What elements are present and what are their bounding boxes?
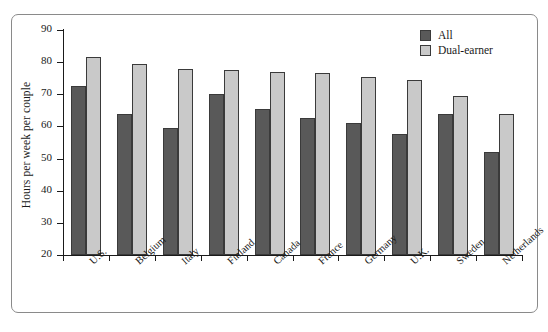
x-tick-mark <box>522 255 523 261</box>
x-tick-mark <box>201 255 202 261</box>
bar-dual-earner[interactable] <box>407 80 422 255</box>
bar-dual-earner[interactable] <box>361 77 376 255</box>
bar-dual-earner[interactable] <box>315 73 330 255</box>
bar-group <box>484 30 514 255</box>
bar-group <box>346 30 376 255</box>
x-tick-mark <box>109 255 110 261</box>
x-tick-mark <box>338 255 339 261</box>
chart-figure: Hours per week per couple 20304050607080… <box>0 0 548 332</box>
bar-all[interactable] <box>71 86 86 255</box>
bar-all[interactable] <box>255 109 270 255</box>
legend-item[interactable]: Dual-earner <box>420 43 493 58</box>
y-tick-label: 70 <box>0 87 52 98</box>
x-tick-mark <box>384 255 385 261</box>
legend-label: All <box>438 30 453 42</box>
bar-group <box>117 30 147 255</box>
legend-swatch-icon <box>420 30 431 41</box>
x-tick-mark <box>430 255 431 261</box>
y-tick-label: 50 <box>0 152 52 163</box>
legend-item[interactable]: All <box>420 28 493 43</box>
bar-group <box>163 30 193 255</box>
bar-group <box>438 30 468 255</box>
bar-all[interactable] <box>209 94 224 255</box>
y-tick-label: 60 <box>0 119 52 130</box>
bar-dual-earner[interactable] <box>86 57 101 255</box>
bar-dual-earner[interactable] <box>499 114 514 255</box>
bar-group <box>255 30 285 255</box>
y-tick-label: 40 <box>0 184 52 195</box>
bar-all[interactable] <box>346 123 361 255</box>
bar-dual-earner[interactable] <box>224 70 239 255</box>
bar-group <box>209 30 239 255</box>
bar-all[interactable] <box>438 114 453 255</box>
x-tick-mark <box>293 255 294 261</box>
legend-swatch-icon <box>420 45 431 56</box>
plot-area <box>63 30 522 255</box>
legend-label: Dual-earner <box>438 45 493 57</box>
chart-legend: AllDual-earner <box>420 28 493 58</box>
bar-all[interactable] <box>300 118 315 255</box>
bar-all[interactable] <box>117 114 132 255</box>
bar-group <box>300 30 330 255</box>
bar-all[interactable] <box>484 152 499 255</box>
bar-dual-earner[interactable] <box>270 72 285 255</box>
x-tick-mark <box>63 255 64 261</box>
bar-all[interactable] <box>163 128 178 255</box>
y-axis-title: Hours per week per couple <box>18 50 34 240</box>
bar-dual-earner[interactable] <box>132 64 147 255</box>
y-tick-label: 90 <box>0 23 52 34</box>
bar-group <box>71 30 101 255</box>
x-tick-mark <box>476 255 477 261</box>
bar-group <box>392 30 422 255</box>
y-tick-label: 20 <box>0 248 52 259</box>
x-tick-mark <box>247 255 248 261</box>
bar-dual-earner[interactable] <box>178 69 193 255</box>
bar-dual-earner[interactable] <box>453 96 468 255</box>
x-tick-mark <box>155 255 156 261</box>
y-tick-label: 30 <box>0 216 52 227</box>
y-tick-label: 80 <box>0 55 52 66</box>
